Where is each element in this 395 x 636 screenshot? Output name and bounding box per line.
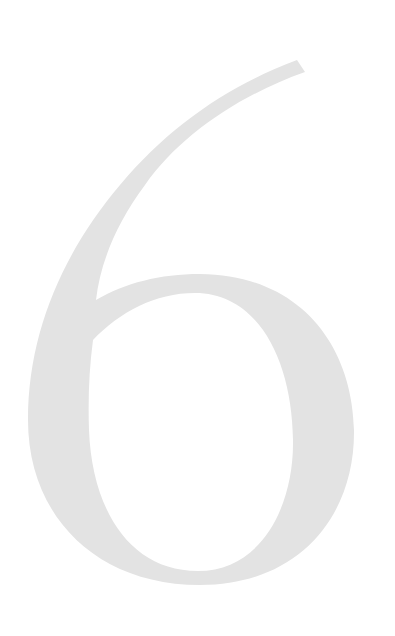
chapter-page: 6 bbox=[0, 0, 395, 636]
chapter-number-glyph bbox=[0, 0, 395, 636]
numeral-six-shape bbox=[28, 60, 354, 585]
